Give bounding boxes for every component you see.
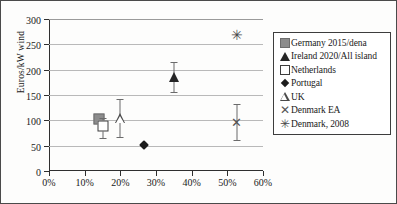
error-bar-cap xyxy=(233,140,240,141)
legend-item[interactable]: Germany 2015/dena xyxy=(278,36,387,50)
x-tick-label: 0% xyxy=(42,177,55,188)
gridline xyxy=(49,44,263,45)
data-point-denmark-ea: ✕ xyxy=(231,115,242,128)
triangle-filled-icon xyxy=(278,50,291,63)
legend-item[interactable]: UK xyxy=(278,90,387,104)
legend-item[interactable]: Ireland 2020/All island xyxy=(278,50,387,64)
data-point-uk xyxy=(115,113,125,123)
x-tick xyxy=(227,171,228,176)
error-bar-cap xyxy=(233,104,240,105)
x-tick-label: 60% xyxy=(254,177,272,188)
error-bar-cap xyxy=(170,92,177,93)
error-bar-cap xyxy=(116,137,123,138)
y-tick-label: 150 xyxy=(26,91,41,102)
data-point-denmark-2008: ✳ xyxy=(231,28,243,42)
x-tick xyxy=(120,171,121,176)
x-tick-label: 40% xyxy=(182,177,200,188)
gridline xyxy=(49,95,263,96)
y-tick: 150 xyxy=(44,95,49,96)
data-point-netherlands xyxy=(97,121,108,132)
gridline xyxy=(49,19,263,20)
y-tick: 50 xyxy=(44,146,49,147)
legend-item[interactable]: ✳Denmark, 2008 xyxy=(278,117,387,131)
y-tick-label: 0 xyxy=(36,167,41,178)
legend-item-label: Netherlands xyxy=(291,65,336,75)
legend-item-label: Ireland 2020/All island xyxy=(291,51,377,61)
error-bar-cap xyxy=(99,118,106,119)
x-tick xyxy=(263,171,264,176)
data-point-ireland-2020-all-island xyxy=(169,72,179,82)
x-tick xyxy=(49,171,50,176)
y-tick: 100 xyxy=(44,120,49,121)
y-tick: 200 xyxy=(44,70,49,71)
square-open-icon xyxy=(278,63,291,76)
y-tick-label: 300 xyxy=(26,15,41,26)
y-tick-label: 200 xyxy=(26,65,41,76)
error-bar-cap xyxy=(116,99,123,100)
square-filled-icon xyxy=(278,36,291,49)
legend-item-label: Denmark EA xyxy=(291,105,340,115)
legend-item[interactable]: ✕Denmark EA xyxy=(278,104,387,118)
y-tick: 300 xyxy=(44,19,49,20)
diamond-icon xyxy=(278,77,291,90)
y-tick-label: 50 xyxy=(31,141,41,152)
gridline xyxy=(49,146,263,147)
legend-item-label: UK xyxy=(291,92,305,102)
x-tick xyxy=(192,171,193,176)
legend-item-label: Denmark, 2008 xyxy=(291,119,349,129)
x-tick-label: 30% xyxy=(147,177,165,188)
chart-figure: Euros/kW wind 050100150200250300 0%10%20… xyxy=(0,0,397,204)
triangle-open-icon xyxy=(278,90,291,103)
error-bar-cap xyxy=(170,62,177,63)
y-tick-label: 100 xyxy=(26,116,41,127)
x-tick xyxy=(85,171,86,176)
x-tick-label: 10% xyxy=(75,177,93,188)
y-tick: 250 xyxy=(44,44,49,45)
x-tick xyxy=(156,171,157,176)
legend-item-label: Germany 2015/dena xyxy=(291,38,367,48)
legend-item-label: Portugal xyxy=(291,78,322,88)
x-tick-label: 20% xyxy=(111,177,129,188)
x-tick-label: 50% xyxy=(218,177,236,188)
chart-legend: Germany 2015/denaIreland 2020/All island… xyxy=(273,32,391,135)
gridline xyxy=(49,70,263,71)
y-tick-label: 250 xyxy=(26,40,41,51)
error-bar-cap xyxy=(99,138,106,139)
star-cross-icon: ✳ xyxy=(278,117,291,130)
legend-item[interactable]: Portugal xyxy=(278,77,387,91)
y-axis-title: Euros/kW wind xyxy=(16,7,26,117)
x-cross-icon: ✕ xyxy=(278,104,291,117)
legend-item[interactable]: Netherlands xyxy=(278,63,387,77)
plot-area: 050100150200250300 0%10%20%30%40%50%60% … xyxy=(49,19,263,171)
